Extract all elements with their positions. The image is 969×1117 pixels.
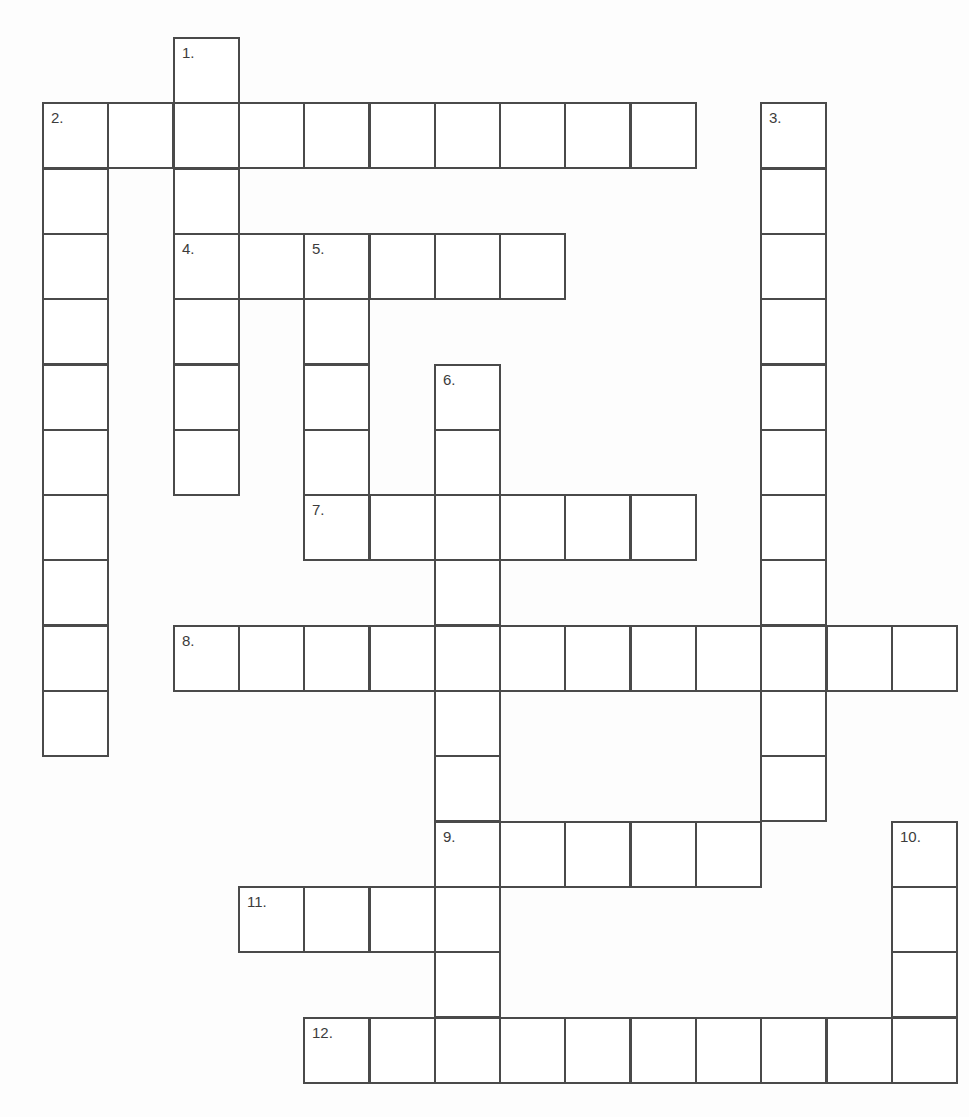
crossword-cell[interactable] bbox=[760, 1017, 827, 1084]
crossword-cell[interactable] bbox=[303, 364, 370, 431]
crossword-cell[interactable] bbox=[891, 951, 958, 1018]
crossword-cell[interactable] bbox=[630, 494, 697, 561]
crossword-cell[interactable]: 6. bbox=[434, 364, 501, 431]
crossword-cell[interactable] bbox=[434, 690, 501, 757]
crossword-cell[interactable] bbox=[891, 886, 958, 953]
crossword-cell[interactable] bbox=[173, 102, 240, 169]
crossword-cell[interactable] bbox=[42, 690, 109, 757]
crossword-cell[interactable] bbox=[760, 168, 827, 235]
crossword-cell[interactable] bbox=[42, 559, 109, 626]
crossword-cell[interactable] bbox=[630, 625, 697, 692]
crossword-cell[interactable] bbox=[369, 886, 436, 953]
crossword-cell[interactable] bbox=[434, 102, 501, 169]
crossword-cell[interactable] bbox=[434, 1017, 501, 1084]
crossword-cell[interactable] bbox=[760, 559, 827, 626]
crossword-cell[interactable] bbox=[760, 233, 827, 300]
crossword-cell[interactable]: 8. bbox=[173, 625, 240, 692]
crossword-cell[interactable] bbox=[760, 690, 827, 757]
crossword-cell[interactable] bbox=[173, 429, 240, 496]
crossword-cell[interactable] bbox=[434, 951, 501, 1018]
crossword-cell[interactable] bbox=[303, 886, 370, 953]
crossword-cell[interactable] bbox=[695, 625, 762, 692]
crossword-cell[interactable] bbox=[564, 625, 631, 692]
clue-number: 2. bbox=[51, 110, 64, 125]
crossword-cell[interactable]: 10. bbox=[891, 821, 958, 888]
crossword-cell[interactable] bbox=[891, 625, 958, 692]
crossword-cell[interactable] bbox=[173, 168, 240, 235]
crossword-cell[interactable] bbox=[238, 102, 305, 169]
crossword-cell[interactable] bbox=[173, 298, 240, 365]
crossword-cell[interactable] bbox=[760, 298, 827, 365]
crossword-cell[interactable]: 9. bbox=[434, 821, 501, 888]
crossword-cell[interactable] bbox=[238, 233, 305, 300]
crossword-cell[interactable] bbox=[826, 1017, 893, 1084]
crossword-cell[interactable] bbox=[630, 102, 697, 169]
crossword-cell[interactable] bbox=[42, 233, 109, 300]
crossword-cell[interactable] bbox=[107, 102, 174, 169]
clue-number: 3. bbox=[769, 110, 782, 125]
crossword-cell[interactable] bbox=[826, 625, 893, 692]
crossword-cell[interactable] bbox=[499, 494, 566, 561]
crossword-cell[interactable] bbox=[891, 1017, 958, 1084]
crossword-cell[interactable] bbox=[369, 1017, 436, 1084]
crossword-cell[interactable] bbox=[173, 364, 240, 431]
crossword-cell[interactable] bbox=[42, 298, 109, 365]
crossword-cell[interactable] bbox=[303, 298, 370, 365]
crossword-cell[interactable] bbox=[42, 364, 109, 431]
crossword-cell[interactable]: 7. bbox=[303, 494, 370, 561]
crossword-cell[interactable]: 2. bbox=[42, 102, 109, 169]
crossword-cell[interactable]: 5. bbox=[303, 233, 370, 300]
crossword-cell[interactable] bbox=[369, 233, 436, 300]
clue-number: 1. bbox=[182, 45, 195, 60]
crossword-cell[interactable] bbox=[564, 102, 631, 169]
crossword-cell[interactable] bbox=[369, 102, 436, 169]
crossword-cell[interactable] bbox=[434, 625, 501, 692]
crossword-cell[interactable]: 3. bbox=[760, 102, 827, 169]
crossword-cell[interactable] bbox=[434, 886, 501, 953]
clue-number: 12. bbox=[312, 1025, 333, 1040]
crossword-cell[interactable] bbox=[499, 625, 566, 692]
crossword-cell[interactable] bbox=[42, 494, 109, 561]
crossword-cell[interactable] bbox=[630, 821, 697, 888]
crossword-cell[interactable] bbox=[303, 429, 370, 496]
crossword-cell[interactable]: 4. bbox=[173, 233, 240, 300]
crossword-cell[interactable] bbox=[303, 625, 370, 692]
crossword-cell[interactable] bbox=[760, 625, 827, 692]
crossword-cell[interactable] bbox=[564, 1017, 631, 1084]
crossword-cell[interactable] bbox=[434, 494, 501, 561]
crossword-cell[interactable] bbox=[695, 821, 762, 888]
crossword-cell[interactable] bbox=[499, 1017, 566, 1084]
crossword-cell[interactable]: 1. bbox=[173, 37, 240, 104]
crossword-grid: 1.4.2.3.5.7.6.9.8.10.11.12. bbox=[0, 0, 969, 1117]
crossword-cell[interactable] bbox=[760, 755, 827, 822]
crossword-cell[interactable] bbox=[434, 559, 501, 626]
crossword-cell[interactable] bbox=[303, 102, 370, 169]
crossword-cell[interactable] bbox=[564, 494, 631, 561]
crossword-cell[interactable] bbox=[42, 168, 109, 235]
crossword-cell[interactable] bbox=[760, 364, 827, 431]
clue-number: 10. bbox=[900, 829, 921, 844]
crossword-cell[interactable] bbox=[434, 755, 501, 822]
clue-number: 5. bbox=[312, 241, 325, 256]
crossword-cell[interactable] bbox=[42, 625, 109, 692]
crossword-cell[interactable] bbox=[499, 821, 566, 888]
crossword-cell[interactable] bbox=[564, 821, 631, 888]
crossword-cell[interactable] bbox=[238, 625, 305, 692]
clue-number: 8. bbox=[182, 633, 195, 648]
clue-number: 9. bbox=[443, 829, 456, 844]
crossword-cell[interactable] bbox=[630, 1017, 697, 1084]
crossword-cell[interactable] bbox=[434, 233, 501, 300]
crossword-cell[interactable] bbox=[695, 1017, 762, 1084]
crossword-cell[interactable]: 11. bbox=[238, 886, 305, 953]
crossword-cell[interactable] bbox=[434, 429, 501, 496]
crossword-cell[interactable] bbox=[760, 429, 827, 496]
crossword-cell[interactable]: 12. bbox=[303, 1017, 370, 1084]
crossword-cell[interactable] bbox=[499, 102, 566, 169]
clue-number: 4. bbox=[182, 241, 195, 256]
crossword-cell[interactable] bbox=[42, 429, 109, 496]
crossword-cell[interactable] bbox=[369, 625, 436, 692]
clue-number: 11. bbox=[247, 894, 267, 909]
crossword-cell[interactable] bbox=[369, 494, 436, 561]
crossword-cell[interactable] bbox=[499, 233, 566, 300]
crossword-cell[interactable] bbox=[760, 494, 827, 561]
